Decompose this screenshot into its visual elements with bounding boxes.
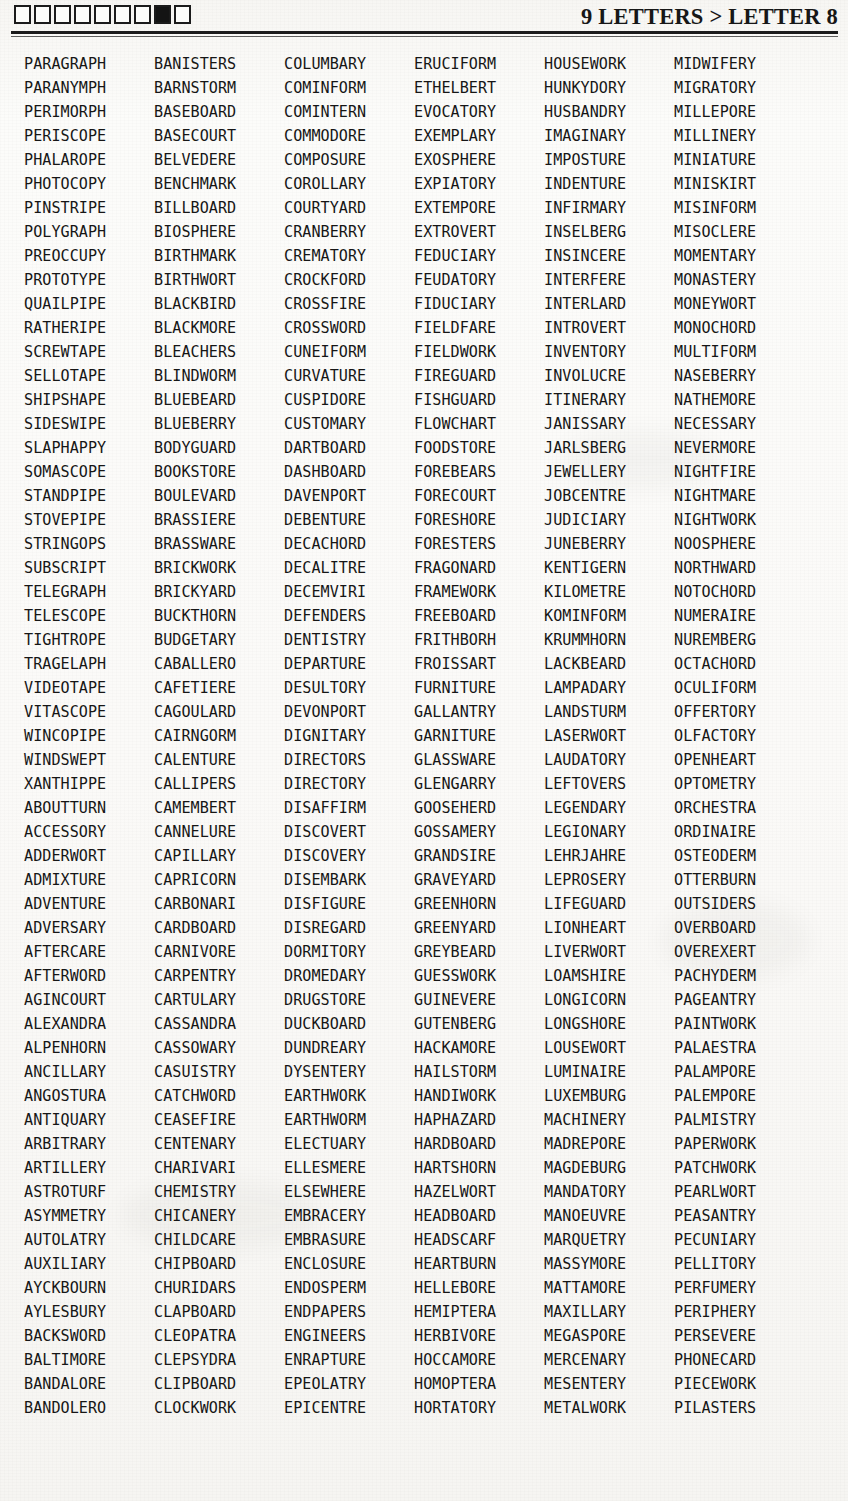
- word-entry[interactable]: ALPENHORN: [24, 1036, 154, 1060]
- word-entry[interactable]: DASHBOARD: [284, 460, 414, 484]
- word-entry[interactable]: DUNDREARY: [284, 1036, 414, 1060]
- word-entry[interactable]: LOAMSHIRE: [544, 964, 674, 988]
- word-entry[interactable]: COMINTERN: [284, 100, 414, 124]
- word-entry[interactable]: MISINFORM: [674, 196, 804, 220]
- word-entry[interactable]: PHONECARD: [674, 1348, 804, 1372]
- word-entry[interactable]: LAUDATORY: [544, 748, 674, 772]
- word-entry[interactable]: CASUISTRY: [154, 1060, 284, 1084]
- word-entry[interactable]: BLACKBIRD: [154, 292, 284, 316]
- word-entry[interactable]: MINISKIRT: [674, 172, 804, 196]
- word-entry[interactable]: LIFEGUARD: [544, 892, 674, 916]
- word-entry[interactable]: CARBONARI: [154, 892, 284, 916]
- word-entry[interactable]: PREOCCUPY: [24, 244, 154, 268]
- letter-box-7-empty[interactable]: [134, 5, 151, 24]
- word-entry[interactable]: COURTYARD: [284, 196, 414, 220]
- word-entry[interactable]: GLASSWARE: [414, 748, 544, 772]
- word-entry[interactable]: CLEPSYDRA: [154, 1348, 284, 1372]
- word-entry[interactable]: GRAVEYARD: [414, 868, 544, 892]
- word-entry[interactable]: DIGNITARY: [284, 724, 414, 748]
- word-entry[interactable]: ITINERARY: [544, 388, 674, 412]
- word-entry[interactable]: DECALITRE: [284, 556, 414, 580]
- word-entry[interactable]: HEADBOARD: [414, 1204, 544, 1228]
- word-entry[interactable]: CARDBOARD: [154, 916, 284, 940]
- word-entry[interactable]: TELEGRAPH: [24, 580, 154, 604]
- word-entry[interactable]: AFTERWORD: [24, 964, 154, 988]
- word-entry[interactable]: BLEACHERS: [154, 340, 284, 364]
- word-entry[interactable]: DENTISTRY: [284, 628, 414, 652]
- word-entry[interactable]: GREENHORN: [414, 892, 544, 916]
- word-entry[interactable]: ENDOSPERM: [284, 1276, 414, 1300]
- word-entry[interactable]: NORTHWARD: [674, 556, 804, 580]
- word-entry[interactable]: HAZELWORT: [414, 1180, 544, 1204]
- word-entry[interactable]: ELSEWHERE: [284, 1180, 414, 1204]
- word-entry[interactable]: FEUDATORY: [414, 268, 544, 292]
- word-entry[interactable]: AGINCOURT: [24, 988, 154, 1012]
- word-entry[interactable]: HEADSCARF: [414, 1228, 544, 1252]
- word-entry[interactable]: QUAILPIPE: [24, 292, 154, 316]
- word-entry[interactable]: PHOTOCOPY: [24, 172, 154, 196]
- word-entry[interactable]: MIGRATORY: [674, 76, 804, 100]
- word-entry[interactable]: MISOCLERE: [674, 220, 804, 244]
- word-entry[interactable]: BUDGETARY: [154, 628, 284, 652]
- word-entry[interactable]: JOBCENTRE: [544, 484, 674, 508]
- word-entry[interactable]: SLAPHAPPY: [24, 436, 154, 460]
- word-entry[interactable]: LOUSEWORT: [544, 1036, 674, 1060]
- letter-box-1-empty[interactable]: [14, 5, 31, 24]
- word-entry[interactable]: DUCKBOARD: [284, 1012, 414, 1036]
- word-entry[interactable]: LANDSTURM: [544, 700, 674, 724]
- word-entry[interactable]: MILLINERY: [674, 124, 804, 148]
- word-entry[interactable]: MERCENARY: [544, 1348, 674, 1372]
- word-entry[interactable]: OLFACTORY: [674, 724, 804, 748]
- word-entry[interactable]: COLUMBARY: [284, 52, 414, 76]
- word-entry[interactable]: ABOUTTURN: [24, 796, 154, 820]
- word-entry[interactable]: CHURIDARS: [154, 1276, 284, 1300]
- word-entry[interactable]: LAMPADARY: [544, 676, 674, 700]
- word-entry[interactable]: STOVEPIPE: [24, 508, 154, 532]
- word-entry[interactable]: NUMERAIRE: [674, 604, 804, 628]
- word-entry[interactable]: PAINTWORK: [674, 1012, 804, 1036]
- word-entry[interactable]: NOTOCHORD: [674, 580, 804, 604]
- word-entry[interactable]: VITASCOPE: [24, 700, 154, 724]
- word-entry[interactable]: PEARLWORT: [674, 1180, 804, 1204]
- word-entry[interactable]: NIGHTWORK: [674, 508, 804, 532]
- word-entry[interactable]: FIELDWORK: [414, 340, 544, 364]
- word-entry[interactable]: EMBRASURE: [284, 1228, 414, 1252]
- word-entry[interactable]: FISHGUARD: [414, 388, 544, 412]
- word-entry[interactable]: ERUCIFORM: [414, 52, 544, 76]
- word-entry[interactable]: ANGOSTURA: [24, 1084, 154, 1108]
- word-entry[interactable]: LUXEMBURG: [544, 1084, 674, 1108]
- word-entry[interactable]: PALEMPORE: [674, 1084, 804, 1108]
- word-entry[interactable]: BARNSTORM: [154, 76, 284, 100]
- word-entry[interactable]: INVOLUCRE: [544, 364, 674, 388]
- word-entry[interactable]: HOCCAMORE: [414, 1348, 544, 1372]
- word-entry[interactable]: FURNITURE: [414, 676, 544, 700]
- word-entry[interactable]: TELESCOPE: [24, 604, 154, 628]
- word-entry[interactable]: AUXILIARY: [24, 1252, 154, 1276]
- word-entry[interactable]: FREEBOARD: [414, 604, 544, 628]
- word-entry[interactable]: FORESTERS: [414, 532, 544, 556]
- word-entry[interactable]: PALMISTRY: [674, 1108, 804, 1132]
- word-entry[interactable]: PERFUMERY: [674, 1276, 804, 1300]
- word-entry[interactable]: INDENTURE: [544, 172, 674, 196]
- word-entry[interactable]: BASECOURT: [154, 124, 284, 148]
- word-entry[interactable]: INTROVERT: [544, 316, 674, 340]
- word-entry[interactable]: ALEXANDRA: [24, 1012, 154, 1036]
- letter-box-2-empty[interactable]: [34, 5, 51, 24]
- word-entry[interactable]: EARTHWORK: [284, 1084, 414, 1108]
- word-entry[interactable]: MONEYWORT: [674, 292, 804, 316]
- word-entry[interactable]: EVOCATORY: [414, 100, 544, 124]
- word-entry[interactable]: CALLIPERS: [154, 772, 284, 796]
- word-entry[interactable]: OCTACHORD: [674, 652, 804, 676]
- word-entry[interactable]: ETHELBERT: [414, 76, 544, 100]
- word-entry[interactable]: BOULEVARD: [154, 484, 284, 508]
- word-entry[interactable]: HAPHAZARD: [414, 1108, 544, 1132]
- word-entry[interactable]: HORTATORY: [414, 1396, 544, 1420]
- word-entry[interactable]: CURVATURE: [284, 364, 414, 388]
- word-entry[interactable]: ENCLOSURE: [284, 1252, 414, 1276]
- word-entry[interactable]: MANOEUVRE: [544, 1204, 674, 1228]
- word-entry[interactable]: JARLSBERG: [544, 436, 674, 460]
- word-entry[interactable]: MINIATURE: [674, 148, 804, 172]
- word-entry[interactable]: FROISSART: [414, 652, 544, 676]
- word-entry[interactable]: CROCKFORD: [284, 268, 414, 292]
- word-entry[interactable]: FRAGONARD: [414, 556, 544, 580]
